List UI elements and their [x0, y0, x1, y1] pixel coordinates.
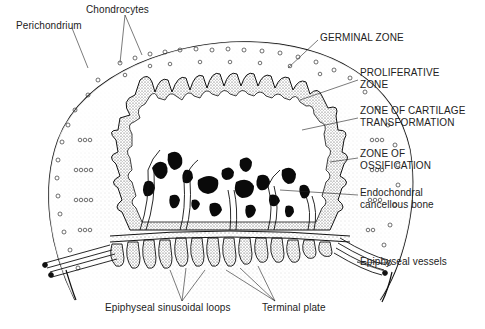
label-epiphyseal-vessels: Epiphyseal vessels: [360, 256, 447, 268]
cartilage-projections: [111, 73, 347, 230]
label-ossification: ZONE OF OSSIFICATION: [360, 148, 431, 172]
label-chondrocytes: Chondrocytes: [86, 4, 149, 16]
label-proliferative-zone: PROLIFERATIVE ZONE: [360, 67, 439, 91]
label-germinal-zone: GERMINAL ZONE: [320, 32, 404, 44]
label-cartilage-transformation: ZONE OF CARTILAGE TRANSFORMATION: [360, 105, 465, 129]
label-sinusoidal-loops: Epiphyseal sinusoidal loops: [105, 302, 231, 314]
label-terminal-plate: Terminal plate: [262, 302, 326, 314]
label-cancellous-bone: Endochondral cancellous bone: [360, 187, 434, 211]
label-perichondrium: Perichondrium: [16, 20, 82, 32]
